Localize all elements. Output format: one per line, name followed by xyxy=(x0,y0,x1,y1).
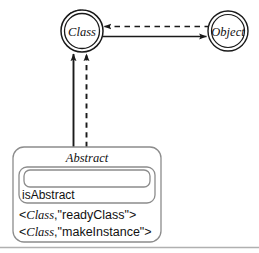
pair-2-close: > xyxy=(144,225,151,239)
node-class-label: Class xyxy=(68,25,96,39)
pair-1-left: Class xyxy=(26,208,54,222)
pair-2-open: < xyxy=(19,225,26,239)
pair-2-left: Class xyxy=(26,225,54,239)
pair-1-right: "readyClass" xyxy=(58,208,129,222)
pair-2-right: "makeInstance" xyxy=(58,225,145,239)
pair-1-close: > xyxy=(129,208,136,222)
pair-row-2: <Class,"makeInstance"> xyxy=(19,225,152,239)
abstract-box-title: Abstract xyxy=(65,151,109,165)
slot-value-field[interactable] xyxy=(24,170,150,187)
diagram-svg: Class Object Abstract isAbstract <Class,… xyxy=(0,0,259,253)
node-class[interactable]: Class xyxy=(61,10,103,52)
attribute-name-label: isAbstract xyxy=(22,188,75,202)
pair-1-open: < xyxy=(19,208,26,222)
pair-row-1: <Class,"readyClass"> xyxy=(19,208,136,222)
abstract-box[interactable]: Abstract isAbstract <Class,"readyClass">… xyxy=(13,147,161,242)
diagram-canvas: Class Object Abstract isAbstract <Class,… xyxy=(0,0,259,253)
node-object[interactable]: Object xyxy=(208,11,248,51)
node-object-label: Object xyxy=(211,25,245,39)
